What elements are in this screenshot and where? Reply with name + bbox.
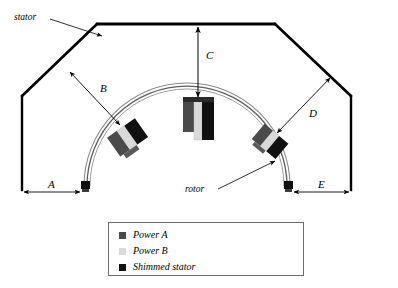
legend-label-shimmed-stator: Shimmed stator <box>133 262 196 272</box>
legend-swatch-power-a <box>119 232 126 239</box>
rotor-foot-left <box>81 181 90 192</box>
legend-swatch-shimmed-stator <box>119 264 126 271</box>
legend-swatch-power-b <box>119 248 126 255</box>
dimension-d: D <box>277 78 330 133</box>
center-shim-assembly <box>183 97 214 140</box>
dimension-c-label: C <box>206 49 214 61</box>
dimension-a-label: A <box>47 178 55 190</box>
dimension-b-label: B <box>100 82 107 94</box>
rotor-leader: rotor <box>185 161 275 194</box>
dimension-b: B <box>70 72 120 125</box>
dimension-d-label: D <box>308 107 317 119</box>
legend-label-power-b: Power B <box>133 246 168 256</box>
legend-item-power-a: Power A <box>119 227 303 243</box>
dimension-e-label: E <box>317 178 325 190</box>
left-shim-assembly <box>107 118 151 160</box>
legend-item-shimmed-stator: Shimmed stator <box>119 259 303 275</box>
legend-label-power-a: Power A <box>133 230 168 240</box>
figure-canvas: C B D A E stator rotor <box>0 0 398 288</box>
dimension-e: E <box>294 178 349 192</box>
rotor-label: rotor <box>185 184 204 194</box>
rotor-foot-right <box>284 181 293 192</box>
legend-item-power-b: Power B <box>119 243 303 259</box>
legend-box: Power A Power B Shimmed stator <box>108 222 304 276</box>
dimension-a: A <box>24 178 80 192</box>
stator-label: stator <box>14 12 36 22</box>
